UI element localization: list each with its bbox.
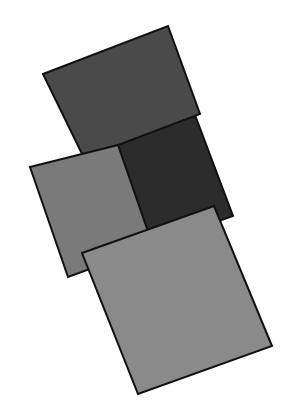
shapes-canvas — [0, 0, 294, 416]
